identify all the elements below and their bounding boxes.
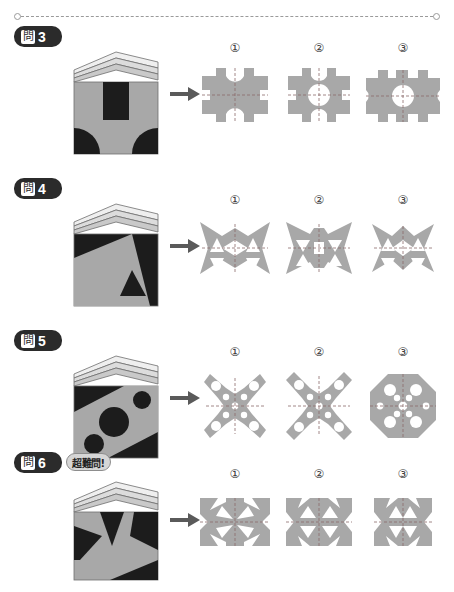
option-shape [196, 482, 274, 574]
option-shape [280, 208, 358, 300]
options-row-3: ① ② [196, 40, 446, 156]
cut-line-end-marker-left [14, 13, 21, 20]
problem-block-6: 問 6 超難問! ① [0, 452, 454, 588]
option-2[interactable]: ② [280, 344, 358, 452]
option-shape [196, 208, 274, 300]
folded-booklet-problem-4 [58, 200, 162, 308]
option-shape [280, 56, 358, 148]
option-shape [364, 482, 442, 574]
option-3[interactable]: ③ [364, 466, 442, 574]
option-3[interactable]: ③ [364, 344, 442, 452]
problem-number-label: 6 [38, 456, 46, 470]
option-shape [364, 208, 442, 300]
problem-badge-5: 問 5 [14, 330, 62, 351]
problem-kanji-label: 問 [21, 334, 35, 348]
option-2[interactable]: ② [280, 40, 358, 148]
option-label: ③ [364, 192, 442, 208]
problem-number-label: 4 [38, 182, 46, 196]
cut-line-dashes [21, 16, 433, 17]
option-2[interactable]: ② [280, 192, 358, 300]
folded-booklet-problem-6 [58, 474, 162, 582]
problem-block-5: 問 5 ① [0, 330, 454, 460]
problem-kanji-label: 問 [21, 182, 35, 196]
folded-booklet-problem-3 [58, 48, 162, 156]
problem-number-label: 3 [38, 30, 46, 44]
option-label: ② [280, 466, 358, 482]
problem-kanji-label: 問 [21, 30, 35, 44]
problem-badge-6: 問 6 [14, 452, 62, 473]
hard-problem-badge: 超難問! [66, 453, 111, 471]
cut-line-end-marker-right [433, 13, 440, 20]
options-row-4: ① ② [196, 192, 446, 308]
problem-number-label: 5 [38, 334, 46, 348]
option-shape [196, 360, 274, 452]
option-label: ③ [364, 344, 442, 360]
worksheet-page: 問 3 ① [0, 0, 454, 592]
option-1[interactable]: ① [196, 466, 274, 574]
option-shape [280, 360, 358, 452]
option-label: ① [196, 40, 274, 56]
option-1[interactable]: ① [196, 344, 274, 452]
options-row-6: ① ② [196, 466, 446, 582]
option-label: ③ [364, 40, 442, 56]
problem-badge-3: 問 3 [14, 26, 62, 47]
option-1[interactable]: ① [196, 192, 274, 300]
option-label: ② [280, 344, 358, 360]
problem-block-3: 問 3 ① [0, 26, 454, 156]
option-2[interactable]: ② [280, 466, 358, 574]
option-label: ① [196, 192, 274, 208]
cut-line [14, 12, 440, 22]
option-3[interactable]: ③ [364, 192, 442, 300]
option-shape [280, 482, 358, 574]
option-label: ② [280, 192, 358, 208]
option-label: ③ [364, 466, 442, 482]
problem-block-4: 問 4 ① [0, 178, 454, 308]
option-shape [196, 56, 274, 148]
option-shape [364, 56, 442, 148]
options-row-5: ① [196, 344, 446, 460]
problem-badge-4: 問 4 [14, 178, 62, 199]
option-1[interactable]: ① [196, 40, 274, 148]
option-3[interactable]: ③ [364, 40, 442, 148]
folded-booklet-problem-5 [58, 352, 162, 460]
option-label: ② [280, 40, 358, 56]
problem-kanji-label: 問 [21, 456, 35, 470]
option-shape [364, 360, 442, 452]
option-label: ① [196, 344, 274, 360]
hard-problem-label: 超難問! [72, 455, 105, 470]
option-label: ① [196, 466, 274, 482]
